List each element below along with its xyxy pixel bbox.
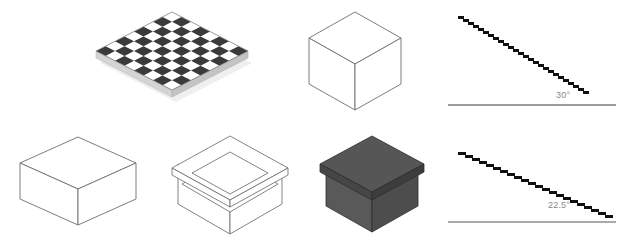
stair-step [528,182,536,185]
figure-wireframe-cube-flattened [14,132,144,232]
board-squares [96,12,248,90]
stair-step [493,37,499,40]
angle-label-225: 22.5° [548,200,570,210]
figure-sheet: 30° [0,0,644,248]
stair-step [458,16,464,19]
stair-step [465,155,473,158]
stair-step [556,194,564,197]
stair-step [598,212,606,215]
stair-step [573,85,579,88]
stair-step [508,46,514,49]
figure-wireframe-cube-isometric [300,6,410,118]
stair-step [535,185,543,188]
stair-step [549,191,557,194]
stair-step [513,49,519,52]
stair-step [570,200,578,203]
stair-step [584,206,592,209]
stair-step [521,179,529,182]
stair-step [507,173,515,176]
angle-label-30: 30° [556,90,570,100]
aliased-staircase-225 [458,152,613,218]
stair-step [518,52,524,55]
stair-step [578,88,584,91]
stair-step [583,91,589,94]
stair-step [483,31,489,34]
aliased-staircase-30 [458,16,589,94]
stair-step [488,34,494,37]
stair-step [498,40,504,43]
stair-step [568,82,574,85]
stair-step [500,170,508,173]
stair-step [472,158,480,161]
stair-step [577,203,585,206]
stair-step [553,73,559,76]
stair-step [548,70,554,73]
stair-step [558,76,564,79]
stair-step [463,19,469,22]
figure-shaded-lidded-box [312,130,432,242]
figure-isometric-checkerboard [92,4,252,114]
stair-step [514,176,522,179]
stair-step [533,61,539,64]
stair-step [591,209,599,212]
stair-step [538,64,544,67]
stair-step [458,152,466,155]
stair-step [528,58,534,61]
stair-step [493,167,501,170]
diagram-angle-30 [444,6,624,116]
stair-step [473,25,479,28]
stair-step [523,55,529,58]
stair-step [605,215,613,218]
figure-wireframe-lidded-box [160,126,300,242]
stair-step [543,67,549,70]
diagram-angle-225 [444,130,624,240]
stair-step [479,161,487,164]
stair-step [542,188,550,191]
stair-step [563,79,569,82]
stair-step [503,43,509,46]
stair-step [478,28,484,31]
stair-step [486,164,494,167]
stair-step [468,22,474,25]
